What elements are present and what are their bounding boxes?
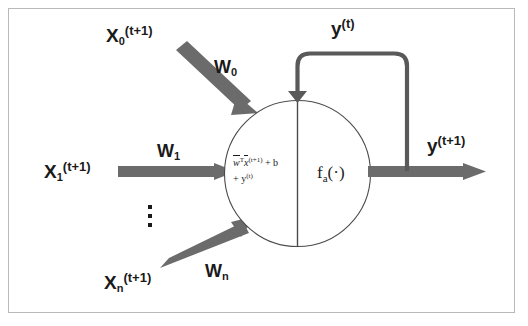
neuron-summation-formula: wTx(t+1) + b + y(t) [233, 155, 278, 186]
summation-line-1: wTx(t+1) + b [233, 155, 278, 171]
weight-label-w0: W0 [214, 58, 237, 78]
diagram-canvas: X0(t+1) W0 X1(t+1) W1 Xn(t+1) Wn wTx(t+1… [0, 0, 528, 326]
input-label-x0: X0(t+1) [106, 24, 153, 47]
weight-label-w1: W1 [157, 142, 180, 162]
weight-label-wn: Wn [205, 262, 229, 282]
activation-function-label: fa(·) [317, 164, 345, 184]
feedback-label-y-t: y(t) [331, 17, 355, 38]
summation-line-2: + y(t) [233, 171, 278, 187]
input-label-xn: Xn(t+1) [104, 271, 151, 294]
input-ellipsis-icon [148, 205, 152, 227]
output-label-y-t1: y(t+1) [427, 134, 465, 155]
input-label-x1: X1(t+1) [44, 160, 91, 183]
